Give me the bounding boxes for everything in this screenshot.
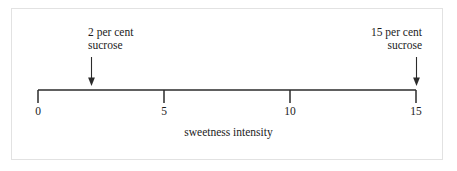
axis-scale-line: [0, 0, 457, 171]
figure-container: 2 per centsucrose 15 per centsucrose 0 5…: [0, 0, 457, 171]
axis-tick-label-10: 10: [270, 105, 310, 118]
axis-tick-label-0: 0: [18, 105, 58, 118]
axis-tick-label-5: 5: [144, 105, 184, 118]
axis-tick-label-15: 15: [396, 105, 436, 118]
axis-caption: sweetness intensity: [0, 126, 457, 138]
